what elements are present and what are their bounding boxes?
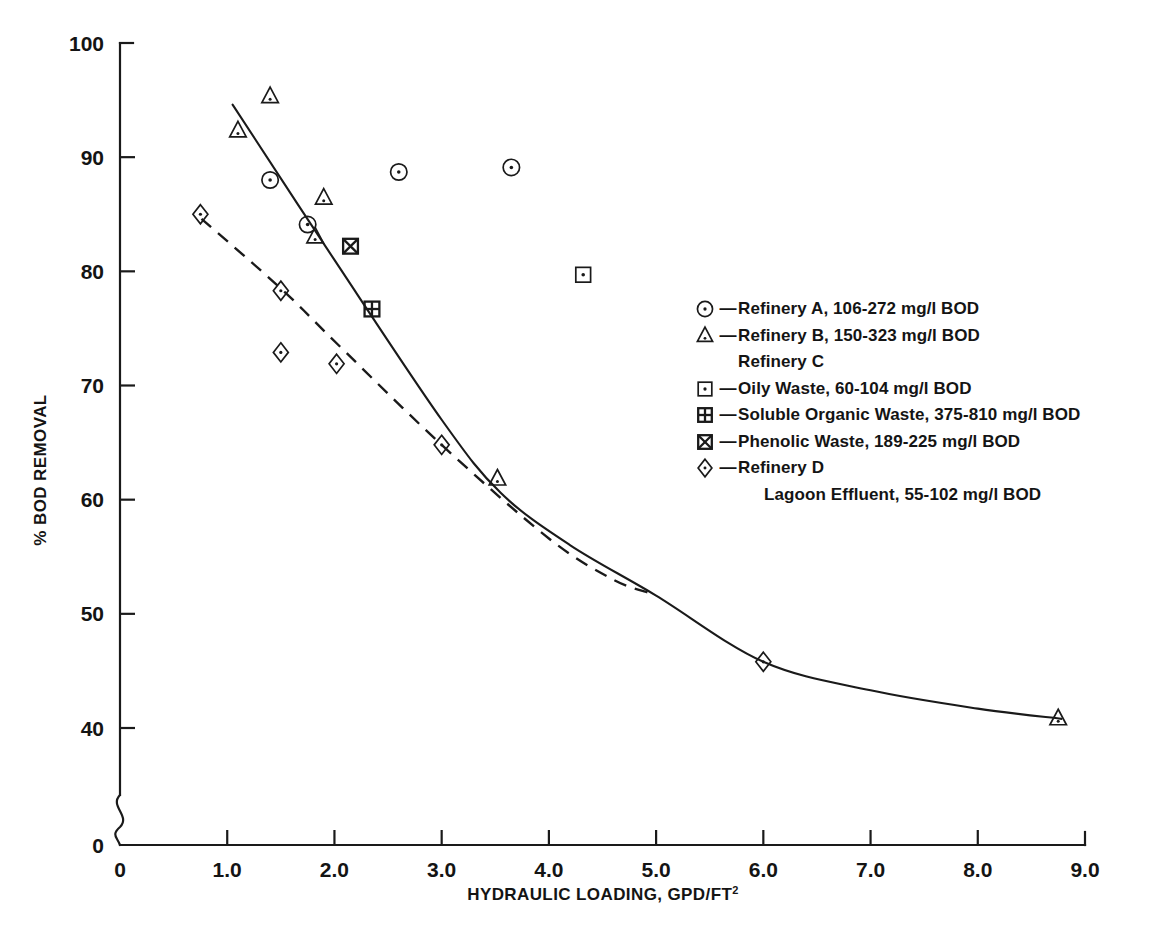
- legend-label-1: Refinery B, 150-323 mg/l BOD: [738, 323, 980, 349]
- y-tick-label-50: 50: [81, 602, 104, 625]
- data-point-square-x-0: [343, 239, 358, 254]
- legend-row-2: Refinery C: [692, 349, 1112, 376]
- legend-circle-dot-icon: [697, 301, 712, 316]
- series-0-circle-dot: [262, 159, 520, 232]
- chart-legend: —Refinery A, 106-272 mg/l BOD—Refinery B…: [692, 296, 1112, 508]
- legend-square-plus-icon: [698, 408, 712, 422]
- legend-label-2: Refinery C: [738, 349, 824, 375]
- data-point-diamond-4: [434, 435, 449, 454]
- legend-label-4: Soluble Organic Waste, 375-810 mg/l BOD: [738, 402, 1080, 428]
- legend-row-0: —Refinery A, 106-272 mg/l BOD: [692, 296, 1112, 323]
- data-point-square-dot-0: [576, 267, 591, 282]
- x-tick-label-3.0: 3.0: [427, 858, 456, 881]
- series-4-square-x: [343, 239, 358, 254]
- data-point-triangle-0: [230, 121, 247, 137]
- legend-marker-square-x-icon: [692, 429, 718, 455]
- data-point-circle-dot-0: [262, 172, 278, 188]
- y-tick-label-90: 90: [81, 146, 104, 169]
- legend-row-1: —Refinery B, 150-323 mg/l BOD: [692, 323, 1112, 350]
- legend-row-3: —Oily Waste, 60-104 mg/l BOD: [692, 376, 1112, 403]
- legend-dash-6: —: [718, 455, 738, 481]
- y-tick-label-0: 0: [92, 834, 104, 857]
- legend-diamond-icon: [698, 459, 712, 477]
- legend-triangle-icon: [697, 327, 712, 341]
- y-tick-label-70: 70: [81, 374, 104, 397]
- legend-square-dot-icon: [698, 382, 712, 396]
- legend-dash-0: —: [718, 296, 738, 322]
- legend-marker-circle-dot-icon: [692, 296, 718, 322]
- x-tick-label-7.0: 7.0: [856, 858, 885, 881]
- data-point-diamond-5: [756, 652, 771, 671]
- data-point-circle-dot-2: [391, 164, 407, 180]
- x-axis-title: HYDRAULIC LOADING, GPD/FT2: [467, 884, 739, 904]
- data-point-circle-dot-3: [503, 159, 519, 175]
- y-axis-title: % BOD REMOVAL: [31, 394, 50, 545]
- series-3-square-plus: [365, 302, 380, 317]
- legend-dash-1: —: [718, 323, 738, 349]
- data-point-triangle-2: [315, 189, 332, 205]
- data-point-diamond-2: [273, 343, 288, 362]
- data-point-triangle-1: [262, 87, 279, 103]
- legend-marker-diamond-icon: [692, 455, 718, 481]
- legend-label-3: Oily Waste, 60-104 mg/l BOD: [738, 376, 972, 402]
- y-axis-break-icon: [115, 795, 123, 845]
- legend-marker-square-plus-icon: [692, 402, 718, 428]
- x-tick-label-0: 0: [114, 858, 126, 881]
- x-tick-label-5.0: 5.0: [642, 858, 671, 881]
- x-tick-label-2.0: 2.0: [320, 858, 349, 881]
- legend-label-5: Phenolic Waste, 189-225 mg/l BOD: [738, 429, 1020, 455]
- legend-marker-triangle-icon: [692, 323, 718, 349]
- x-tick-label-6.0: 6.0: [749, 858, 778, 881]
- legend-label-7: Lagoon Effluent, 55-102 mg/l BOD: [738, 482, 1041, 508]
- legend-row-6: —Refinery D: [692, 455, 1112, 482]
- legend-row-5: —Phenolic Waste, 189-225 mg/l BOD: [692, 429, 1112, 456]
- legend-label-0: Refinery A, 106-272 mg/l BOD: [738, 296, 979, 322]
- series-5-diamond: [193, 205, 771, 672]
- legend-marker-square-dot-icon: [692, 376, 718, 402]
- data-point-diamond-3: [329, 354, 344, 373]
- x-tick-label-8.0: 8.0: [963, 858, 992, 881]
- y-tick-label-40: 40: [81, 717, 104, 740]
- series-2-square-dot: [576, 267, 591, 282]
- legend-dash-4: —: [718, 402, 738, 428]
- y-tick-label-100: 100: [69, 32, 104, 55]
- data-point-square-plus-0: [365, 302, 380, 317]
- x-tick-label-9.0: 9.0: [1070, 858, 1099, 881]
- x-tick-label-1.0: 1.0: [213, 858, 242, 881]
- legend-row-4: —Soluble Organic Waste, 375-810 mg/l BOD: [692, 402, 1112, 429]
- legend-dash-3: —: [718, 376, 738, 402]
- chart-figure: 040506070809010001.02.03.04.05.06.07.08.…: [0, 0, 1149, 930]
- legend-dash-5: —: [718, 429, 738, 455]
- y-tick-label-80: 80: [81, 260, 104, 283]
- x-tick-label-4.0: 4.0: [534, 858, 563, 881]
- y-tick-label-60: 60: [81, 488, 104, 511]
- legend-label-6: Refinery D: [738, 455, 824, 481]
- legend-square-x-icon: [698, 435, 712, 449]
- legend-row-7: Lagoon Effluent, 55-102 mg/l BOD: [692, 482, 1112, 509]
